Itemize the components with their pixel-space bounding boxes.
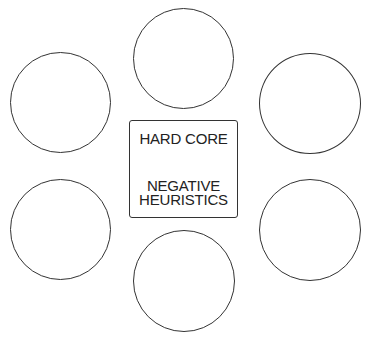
circle-bottom — [133, 230, 235, 332]
circle-bottom-right — [259, 179, 361, 281]
circle-top — [133, 8, 234, 109]
hard-core-box: HARD CORE NEGATIVE HEURISTICS — [129, 120, 238, 218]
circle-top-right — [259, 53, 361, 154]
negative-heuristics-line-2: HEURISTICS — [130, 193, 237, 207]
negative-heuristics-label: NEGATIVE HEURISTICS — [130, 179, 237, 207]
circle-top-left — [10, 52, 111, 153]
hard-core-label: HARD CORE — [130, 130, 237, 147]
circle-bottom-left — [10, 179, 111, 280]
